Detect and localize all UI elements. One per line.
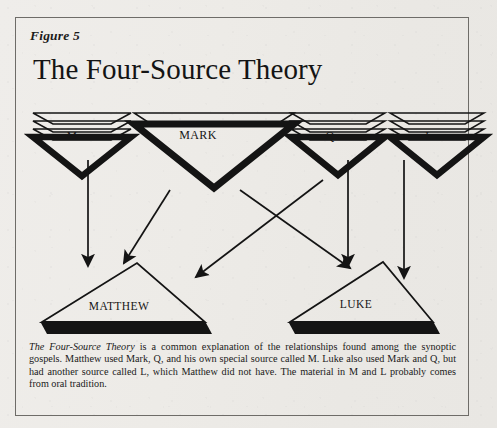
source-node-l-label: L: [425, 130, 432, 142]
source-node-mark-label: MARK: [179, 128, 217, 142]
source-node-m-label: M: [67, 130, 78, 142]
arrow-q-to-matthew: [196, 180, 323, 277]
caption-title: The Four-Source Theory: [29, 341, 135, 352]
scanned-figure-page: Figure 5 The Four-Source Theory M MARK: [0, 0, 497, 428]
figure-caption: The Four-Source Theory is a common expla…: [29, 341, 456, 391]
gospel-node-matthew-label: MATTHEW: [89, 300, 149, 312]
gospel-node-matthew: MATTHEW: [41, 263, 212, 334]
arrow-mark-to-matthew: [124, 190, 170, 263]
source-node-q: Q: [291, 113, 385, 175]
source-node-mark: MARK: [134, 113, 294, 188]
source-node-q-label: Q: [326, 130, 335, 142]
gospel-node-luke-label: LUKE: [340, 298, 372, 310]
source-node-m: M: [33, 113, 131, 176]
gospel-node-luke: LUKE: [289, 262, 440, 334]
